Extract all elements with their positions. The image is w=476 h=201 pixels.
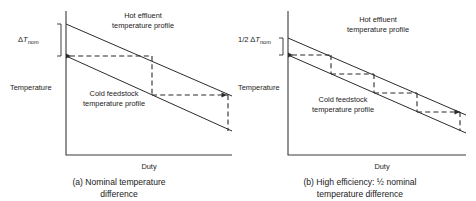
panel-a-hot-label-line1: Hot effluent bbox=[124, 11, 162, 20]
panel-b-caption-line2: temperature difference bbox=[317, 189, 404, 199]
panel-a-nominal: ΔTnom Hot effluent temperature profile C… bbox=[0, 0, 238, 201]
panel-a-delta-label: ΔTnom bbox=[18, 35, 39, 45]
panel-a-delta-sub: nom bbox=[28, 39, 39, 45]
panel-b-delta-label: 1/2 ΔTnom bbox=[238, 35, 271, 45]
panel-a-hot-label-line2: temperature profile bbox=[112, 21, 174, 30]
panel-b-delta-prefix: 1/2 bbox=[238, 35, 250, 44]
panel-b-cold-label-line2: temperature profile bbox=[312, 105, 374, 114]
panel-b-hot-label-line2: temperature profile bbox=[347, 25, 409, 34]
panel-a-caption-line1: (a) Nominal temperature bbox=[72, 177, 165, 187]
panel-b-cold-line bbox=[288, 55, 466, 133]
panel-b-delta-sub: nom bbox=[260, 39, 271, 45]
panel-b-caption-line1: (b) High efficiency: ½ nominal bbox=[303, 177, 416, 187]
panel-b-x-axis-label: Duty bbox=[374, 162, 390, 171]
panel-b-hot-line bbox=[288, 38, 466, 115]
panel-a-x-axis-label: Duty bbox=[141, 162, 157, 171]
panel-a-cold-label-line2: temperature profile bbox=[83, 99, 145, 108]
panel-b-delta-bracket bbox=[279, 38, 283, 55]
figure-container: ΔTnom Hot effluent temperature profile C… bbox=[0, 0, 476, 201]
panel-a-delta-bracket bbox=[57, 24, 61, 56]
panel-a-hot-line bbox=[66, 24, 232, 96]
panel-b-high-efficiency: 1/2 ΔTnom Hot effluent temperature profi… bbox=[238, 0, 476, 201]
panel-b-y-axis-label: Temperature bbox=[238, 83, 280, 92]
panel-b-cold-label-line1: Cold feedstock bbox=[319, 95, 368, 104]
panel-a-y-axis-label: Temperature bbox=[10, 83, 52, 92]
panel-a-cold-label-line1: Cold feedstock bbox=[90, 89, 139, 98]
panel-b-hot-label-line1: Hot effluent bbox=[359, 15, 397, 24]
panel-a-axes bbox=[66, 11, 232, 155]
panel-a-caption-line2: difference bbox=[100, 189, 138, 199]
panel-b-arrow-right-icon bbox=[455, 110, 461, 115]
